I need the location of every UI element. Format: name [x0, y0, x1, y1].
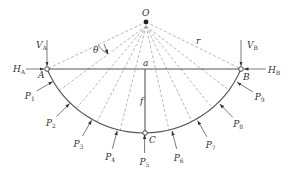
radial-line — [146, 26, 230, 91]
hinge-c — [143, 131, 148, 136]
label-hb: HB — [267, 65, 281, 76]
label-p5: P5 — [139, 157, 150, 168]
center-point-o — [144, 20, 149, 25]
label-p1: P1 — [24, 91, 35, 102]
label-f: f — [139, 96, 145, 106]
radial-loads: P1P2P3P4P5P6P7P8P9 — [24, 82, 265, 168]
label-p4: P4 — [104, 152, 115, 163]
load-arrow-p7 — [198, 121, 207, 137]
label-p7: P7 — [205, 140, 216, 151]
radial-line — [60, 26, 146, 90]
label-a: A — [37, 70, 45, 80]
label-p8: P8 — [232, 119, 243, 130]
label-c: C — [149, 135, 156, 145]
hinge-b — [239, 67, 244, 72]
load-arrow-p1 — [37, 82, 53, 91]
label-p2: P2 — [45, 118, 56, 129]
arch-curve — [47, 69, 241, 133]
load-arrow-p6 — [172, 131, 177, 149]
label-ha: HA — [12, 64, 26, 75]
radial-line — [97, 26, 146, 122]
label-o: O — [142, 8, 150, 18]
label-p3: P3 — [72, 139, 83, 150]
radial-line — [146, 22, 242, 69]
label-p6: P6 — [173, 153, 184, 164]
load-arrow-p4 — [112, 131, 117, 149]
label-va: VA — [36, 40, 48, 51]
load-arrow-p9 — [237, 82, 253, 91]
label-a-mid: a — [143, 58, 148, 68]
hinge-a — [45, 67, 50, 72]
radial-line — [146, 26, 169, 130]
label-theta: θ — [93, 45, 99, 55]
label-p9: P9 — [254, 92, 265, 103]
label-b: B — [242, 72, 250, 82]
load-arrow-p8 — [220, 104, 233, 117]
angle-arrow — [104, 44, 108, 54]
label-r: r — [196, 36, 201, 46]
arch-diagram: O r θ VA HA A VB HB B a f C P1P2P3P4P5P6… — [0, 0, 294, 174]
load-arrow-p2 — [57, 103, 70, 116]
label-vb: VB — [247, 40, 259, 51]
load-arrow-p3 — [82, 120, 91, 136]
